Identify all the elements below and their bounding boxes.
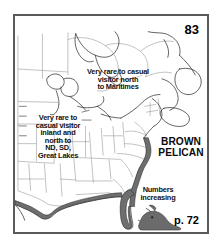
range-map-frame: Very rare to casual visitor north to Mar… — [13, 14, 209, 234]
annotation-inland: Very rare to casual visitor inland and n… — [20, 114, 96, 159]
page-number: 83 — [185, 22, 199, 37]
figure-page: Very rare to casual visitor north to Mar… — [0, 0, 221, 249]
annotation-numbers-increasing: Numbers increasing — [127, 186, 189, 201]
annotation-maritimes: Very rare to casual visitor north to Mar… — [75, 68, 161, 91]
species-name-label: BROWN PELICAN — [153, 136, 209, 159]
page-reference-link[interactable]: p. 72 — [174, 214, 199, 226]
